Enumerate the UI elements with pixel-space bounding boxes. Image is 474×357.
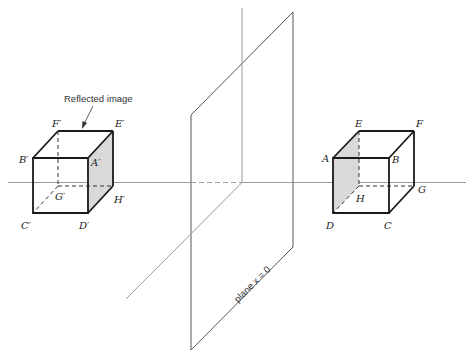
y-axis xyxy=(126,183,242,300)
label-Cp: C′ xyxy=(21,220,32,231)
label-Dp: D′ xyxy=(78,220,90,231)
label-E: E xyxy=(354,118,363,129)
label-A: A xyxy=(321,153,329,164)
label-G: G xyxy=(418,184,426,195)
diagram-svg: F′ E′ B′ A′ G′ H′ C′ D′ Reflected image xyxy=(0,0,474,357)
label-D: D xyxy=(325,220,334,231)
plane-label: plane x = 0 xyxy=(232,264,273,305)
label-F: F xyxy=(415,118,424,129)
label-Ap: A′ xyxy=(90,157,101,168)
label-Ep: E′ xyxy=(114,118,125,129)
annotation-text: Reflected image xyxy=(64,93,133,104)
label-Gp: G′ xyxy=(55,191,66,202)
label-Fp: F′ xyxy=(51,118,62,129)
original-cube: E F A B H G D C xyxy=(321,118,426,231)
label-Hp: H′ xyxy=(113,194,126,205)
arrow-icon xyxy=(82,121,87,129)
reflected-cube: F′ E′ B′ A′ G′ H′ C′ D′ xyxy=(18,118,126,231)
label-H: H xyxy=(355,193,365,204)
label-Bp: B′ xyxy=(18,154,29,165)
label-B: B xyxy=(391,154,399,165)
reflection-diagram: F′ E′ B′ A′ G′ H′ C′ D′ Reflected image xyxy=(0,0,474,357)
label-C: C xyxy=(384,220,392,231)
